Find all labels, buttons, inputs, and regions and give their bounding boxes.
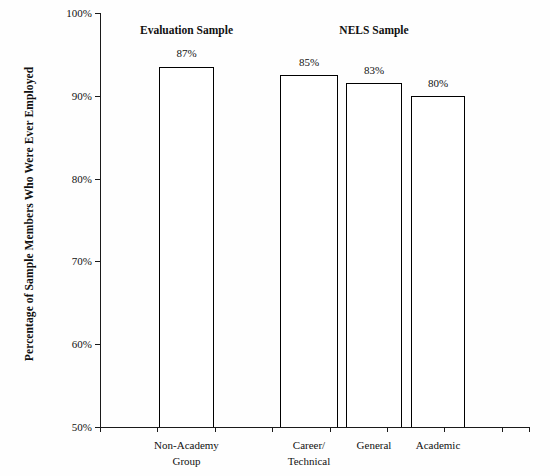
bar-value-label: 85% <box>299 57 319 68</box>
y-tick-label: 50% <box>72 422 92 433</box>
bar-general[interactable] <box>346 83 402 427</box>
x-axis-line <box>100 427 530 428</box>
x-tick-mark <box>502 427 503 432</box>
plot-area: 100% 90% 80% 70% 60% 50% 40% 30% <box>100 13 530 427</box>
bar-career-technical[interactable] <box>280 75 338 427</box>
x-label-line1: Non-Academy <box>154 437 219 453</box>
y-tick-mark <box>95 179 100 180</box>
x-tick-mark <box>157 427 158 432</box>
x-label-general: General <box>357 437 392 453</box>
x-tick-mark <box>272 427 273 432</box>
y-tick-label: 100% <box>66 8 92 19</box>
x-tick-mark <box>444 427 445 432</box>
x-label-line1: Academic <box>416 437 461 453</box>
x-label-non-academy-group: Non-Academy Group <box>154 437 219 469</box>
x-label-line1: Career/ <box>288 437 331 453</box>
bar-academic[interactable] <box>411 96 465 427</box>
y-tick-mark <box>95 96 100 97</box>
x-tick-mark <box>387 427 388 432</box>
y-tick-mark <box>95 261 100 262</box>
y-tick-mark <box>95 13 100 14</box>
y-tick-label: 80% <box>72 173 92 184</box>
y-axis-title: Percentage of Sample Members Who Were Ev… <box>20 34 38 394</box>
group-header-evaluation-sample: Evaluation Sample <box>140 25 233 37</box>
x-label-career-technical: Career/ Technical <box>288 437 331 469</box>
group-header-nels-sample: NELS Sample <box>339 25 408 37</box>
y-axis-line <box>100 13 101 428</box>
bar-value-label: 83% <box>364 65 384 76</box>
x-label-line1: General <box>357 437 392 453</box>
x-tick-mark <box>100 427 101 432</box>
bar-non-academy-group[interactable] <box>159 67 214 427</box>
x-tick-mark <box>529 427 530 432</box>
x-tick-mark <box>215 427 216 432</box>
x-label-line2: Group <box>154 453 219 469</box>
y-tick-label: 60% <box>72 339 92 350</box>
y-tick-label: 90% <box>72 90 92 101</box>
y-tick-mark <box>95 344 100 345</box>
chart-figure: Percentage of Sample Members Who Were Ev… <box>0 0 550 476</box>
x-label-line2: Technical <box>288 453 331 469</box>
x-tick-mark <box>330 427 331 432</box>
bar-value-label: 80% <box>428 78 448 89</box>
x-label-academic: Academic <box>416 437 461 453</box>
bar-value-label: 87% <box>176 48 196 59</box>
y-tick-label: 70% <box>72 256 92 267</box>
